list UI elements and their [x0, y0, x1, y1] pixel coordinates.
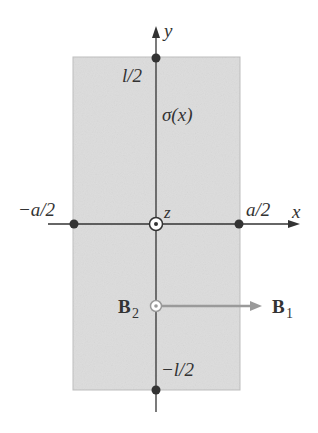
label-bottom-neg-l-half: −l/2: [161, 359, 194, 380]
z-axis-label: z: [163, 203, 171, 222]
b1-arrowhead-icon: [250, 301, 262, 311]
svg-text:2: 2: [132, 306, 139, 321]
label-b1: B 1: [272, 296, 293, 321]
svg-text:1: 1: [286, 306, 293, 321]
label-sigma-x: σ(x): [162, 104, 192, 126]
x-axis-label: x: [291, 201, 301, 222]
point-top: [152, 54, 161, 63]
svg-text:B: B: [118, 296, 131, 317]
label-left-neg-a-half: −a/2: [18, 199, 56, 220]
label-top-l-half: l/2: [122, 65, 143, 86]
field-b2-out-of-page-icon: [151, 301, 162, 312]
svg-text:B: B: [272, 296, 285, 317]
diagram-canvas: y x z l/2 −l/2 −a/2 a/2 σ(x) B 2 B 1: [0, 0, 318, 433]
z-axis-out-of-page-icon: [150, 218, 163, 231]
point-right: [235, 220, 244, 229]
point-left: [70, 220, 79, 229]
y-axis-label: y: [162, 20, 173, 41]
label-right-a-half: a/2: [246, 199, 271, 220]
point-bottom: [152, 386, 161, 395]
y-axis-arrowhead-icon: [152, 26, 160, 38]
